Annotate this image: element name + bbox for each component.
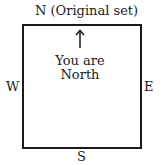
north-text: North bbox=[40, 67, 120, 82]
you-are-text: You are bbox=[40, 53, 120, 68]
north-label: N (Original set) bbox=[35, 4, 138, 18]
south-label: S bbox=[77, 150, 86, 164]
up-arrow-icon bbox=[74, 29, 86, 49]
east-label: E bbox=[144, 80, 154, 94]
west-label: W bbox=[6, 80, 19, 94]
